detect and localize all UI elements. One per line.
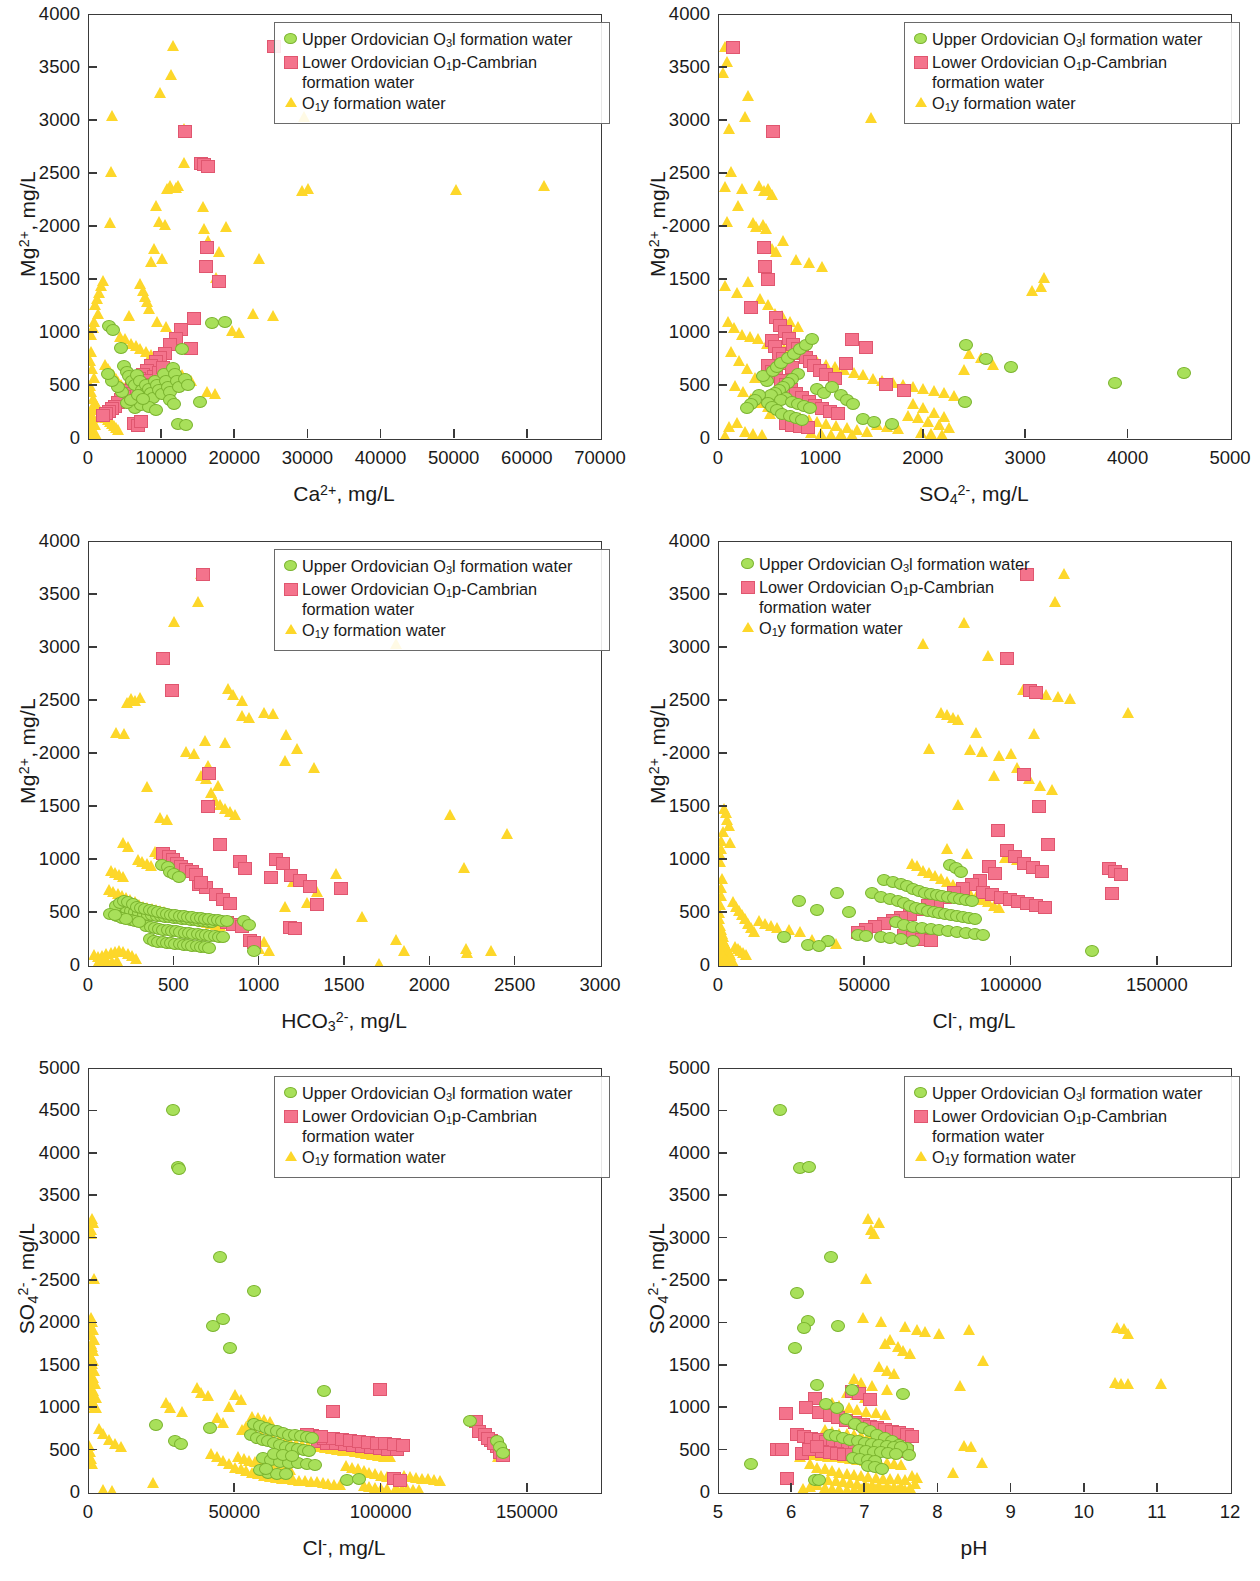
- legend-item: Upper Ordovician O3l formation water: [281, 557, 603, 578]
- data-point-o1y: [723, 123, 735, 134]
- data-point-lower-ordovician-cambrian: [196, 568, 210, 581]
- data-point-o1y: [736, 183, 748, 194]
- data-point-o1y: [865, 1224, 877, 1235]
- data-point-lower-ordovician-cambrian: [96, 409, 110, 422]
- legend-item-label: O1y formation water: [300, 94, 446, 115]
- data-point-upper-ordovician: [114, 342, 128, 354]
- data-point-upper-ordovician: [220, 915, 234, 927]
- data-point-o1y: [719, 280, 731, 291]
- panel-2-mg-vs-so4: 0500100015002000250030003500400001000200…: [630, 0, 1260, 527]
- data-point-upper-ordovician: [247, 1285, 261, 1297]
- data-point-o1y: [220, 221, 232, 232]
- data-point-lower-ordovician-cambrian: [288, 922, 302, 935]
- legend-circle-icon: [281, 30, 300, 44]
- data-point-upper-ordovician: [213, 1251, 227, 1263]
- data-point-o1y: [197, 201, 209, 212]
- y-axis-tick-label: 3500: [640, 583, 710, 605]
- y-axis-tick: [88, 1322, 97, 1324]
- data-point-lower-ordovician-cambrian: [156, 652, 170, 665]
- data-point-o1y: [450, 184, 462, 195]
- y-axis-label: SO42-, mg/L: [15, 1209, 40, 1349]
- data-point-upper-ordovician: [1108, 377, 1122, 389]
- data-point-o1y: [970, 727, 982, 738]
- data-point-o1y: [961, 848, 973, 859]
- x-axis-tick: [1010, 1483, 1012, 1492]
- y-axis-tick-label: 0: [10, 954, 80, 976]
- data-point-upper-ordovician: [790, 1287, 804, 1299]
- x-axis-label: SO42-, mg/L: [718, 482, 1230, 507]
- legend-item-label: O1y formation water: [930, 1148, 1076, 1169]
- data-point-o1y: [964, 744, 976, 755]
- data-point-o1y: [160, 321, 172, 332]
- data-point-o1y: [253, 253, 265, 264]
- y-axis-tick: [718, 1449, 727, 1451]
- y-axis-label: Mg2+, mg/L: [16, 681, 40, 821]
- data-point-o1y: [263, 945, 275, 956]
- y-axis-tick-label: 5000: [10, 1057, 80, 1079]
- data-point-lower-ordovician-cambrian: [845, 333, 859, 346]
- y-axis-tick: [88, 805, 97, 807]
- data-point-o1y: [106, 110, 118, 121]
- data-point-o1y: [982, 650, 994, 661]
- data-point-o1y: [115, 1441, 127, 1452]
- y-axis-tick-label: 4000: [640, 1142, 710, 1164]
- data-point-upper-ordovician: [976, 929, 990, 941]
- data-point-o1y: [1122, 1328, 1134, 1339]
- y-axis-tick-label: 3500: [640, 56, 710, 78]
- y-axis-tick: [718, 646, 727, 648]
- data-point-o1y: [727, 956, 739, 967]
- data-point-o1y: [188, 748, 200, 759]
- legend-square-icon: [911, 53, 930, 69]
- y-axis-tick-label: 0: [640, 954, 710, 976]
- data-point-o1y: [904, 1348, 916, 1359]
- x-axis-tick: [343, 956, 345, 965]
- y-axis-tick: [88, 1194, 97, 1196]
- data-point-o1y: [164, 1402, 176, 1413]
- y-axis-tick: [88, 1279, 97, 1281]
- data-point-lower-ordovician-cambrian: [326, 1405, 340, 1418]
- data-point-o1y: [219, 737, 231, 748]
- legend-item-label: Lower Ordovician O1p-Cambrianformation w…: [757, 578, 994, 618]
- legend-item-label: O1y formation water: [930, 94, 1076, 115]
- x-axis-label: Cl-, mg/L: [718, 1009, 1230, 1033]
- data-point-o1y: [161, 814, 173, 825]
- data-point-o1y: [719, 430, 731, 440]
- x-axis-tick-label: 12: [1170, 1501, 1260, 1523]
- data-point-upper-ordovician: [954, 866, 968, 878]
- data-point-o1y: [718, 67, 729, 78]
- y-axis-tick: [718, 1406, 727, 1408]
- data-point-o1y: [291, 743, 303, 754]
- data-point-o1y: [176, 1406, 188, 1417]
- data-point-lower-ordovician-cambrian: [194, 876, 208, 889]
- data-point-upper-ordovician: [740, 402, 754, 414]
- data-point-o1y: [159, 219, 171, 230]
- data-point-o1y: [860, 1273, 872, 1284]
- data-point-lower-ordovician-cambrian: [780, 1472, 794, 1485]
- data-point-o1y: [923, 743, 935, 754]
- data-point-upper-ordovician: [825, 381, 839, 393]
- data-point-o1y: [1122, 707, 1134, 718]
- y-axis-tick: [718, 1279, 727, 1281]
- data-point-upper-ordovician: [830, 1402, 844, 1414]
- y-axis-tick: [718, 66, 727, 68]
- x-axis-tick-label: 0: [28, 1501, 148, 1523]
- y-axis-label: Mg2+, mg/L: [16, 154, 40, 294]
- data-point-upper-ordovician: [174, 1438, 188, 1450]
- y-axis-tick: [718, 278, 727, 280]
- data-point-upper-ordovician: [968, 913, 982, 925]
- y-axis-tick-label: 3500: [10, 583, 80, 605]
- x-axis-tick: [922, 429, 924, 438]
- x-axis-tick: [1083, 1483, 1085, 1492]
- legend-item: Lower Ordovician O1p-Cambrianformation w…: [281, 53, 603, 93]
- data-point-o1y: [217, 1417, 229, 1428]
- data-point-lower-ordovician-cambrian: [201, 160, 215, 173]
- x-axis-tick: [937, 1483, 939, 1492]
- legend-square-icon: [738, 578, 757, 594]
- data-point-upper-ordovician: [136, 393, 150, 405]
- data-point-o1y: [178, 157, 190, 168]
- data-point-lower-ordovician-cambrian: [165, 684, 179, 697]
- legend-item: Upper Ordovician O3l formation water: [738, 555, 1029, 576]
- data-point-o1y: [879, 1338, 891, 1349]
- data-point-o1y: [118, 728, 130, 739]
- y-axis-tick-label: 5000: [640, 1057, 710, 1079]
